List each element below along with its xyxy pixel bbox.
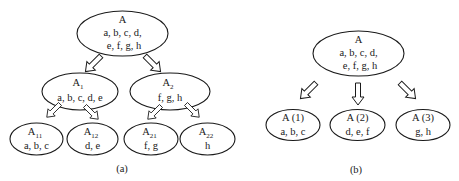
- node-b-root: A a, b, c, d, e, f, g, h: [313, 31, 404, 76]
- node-items: h: [205, 140, 211, 151]
- node-a21: A21 f, g: [124, 123, 178, 155]
- node-items: d, e, f: [346, 126, 370, 137]
- node-a11: A11 a, b, c: [10, 123, 63, 155]
- node-items: f, g: [144, 140, 159, 151]
- node-a12: A12 d, e: [67, 123, 118, 155]
- arrow-icon: [396, 79, 420, 103]
- node-a1: A1 a, b, c, d, e: [42, 73, 118, 110]
- node-items: a, b, c: [24, 140, 49, 151]
- arrow-icon: [141, 52, 165, 76]
- node-label: A: [355, 34, 363, 45]
- node-b3: A (3) g, h: [396, 110, 450, 141]
- node-items-line1: a, b, c, d,: [339, 47, 377, 58]
- node-items: a, b, c, d, e: [57, 92, 103, 103]
- node-items: g, h: [415, 126, 432, 137]
- node-b2: A (2) d, e, f: [330, 110, 385, 141]
- node-a-root: A a, b, c, d, e, f, g, h: [77, 11, 168, 56]
- arrow-icon: [81, 52, 105, 76]
- caption-a: (a): [116, 163, 128, 175]
- node-items-line2: e, f, g, h: [343, 60, 378, 71]
- node-b1: A (1) a, b, c: [266, 110, 320, 141]
- partition-diagrams: A a, b, c, d, e, f, g, h A1 a, b, c, d, …: [0, 0, 459, 181]
- caption-b: (b): [350, 164, 363, 176]
- node-items-line1: a, b, c, d,: [103, 27, 141, 38]
- node-items: f, g, h: [158, 92, 183, 103]
- arrow-icon: [352, 83, 364, 105]
- node-a2: A2 f, g, h: [130, 73, 210, 110]
- node-items: a, b, c: [280, 126, 305, 137]
- diagram-a: A a, b, c, d, e, f, g, h A1 a, b, c, d, …: [10, 11, 235, 175]
- node-items: d, e: [85, 140, 101, 151]
- node-label: A: [119, 14, 127, 25]
- node-label: A (1): [282, 112, 304, 124]
- diagram-b: A a, b, c, d, e, f, g, h A (1) a, b, c A…: [266, 31, 450, 176]
- node-label: A (2): [347, 112, 369, 124]
- node-items-line2: e, f, g, h: [107, 40, 142, 51]
- arrow-icon: [296, 79, 320, 103]
- node-a22: A22 h: [180, 123, 235, 155]
- node-label: A (3): [412, 112, 434, 124]
